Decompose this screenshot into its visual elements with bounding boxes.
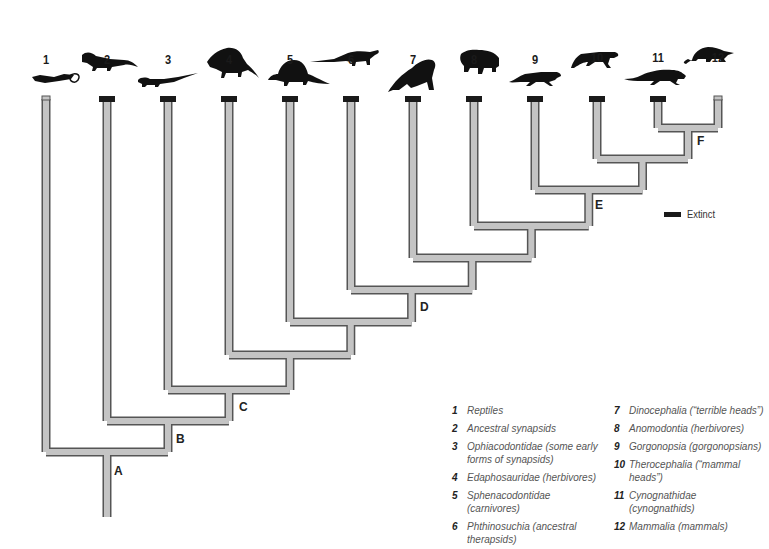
node-label-f: F bbox=[697, 134, 704, 148]
key-text: Therocephalia (“mammal heads”) bbox=[629, 458, 764, 484]
key-item: 9Gorgonopsia (gorgonopsians) bbox=[614, 440, 764, 453]
extinct-marker-icon bbox=[527, 96, 543, 102]
taxon-number: 11 bbox=[645, 50, 671, 65]
node-label-e: E bbox=[595, 198, 603, 212]
key-number: 10 bbox=[614, 458, 626, 484]
extinct-marker-icon bbox=[589, 96, 605, 102]
key-text: Cynognathidae (cynognathids) bbox=[629, 489, 764, 515]
key-number: 3 bbox=[452, 440, 464, 466]
taxon-number: 7 bbox=[400, 52, 426, 67]
key-number: 9 bbox=[614, 440, 626, 453]
key-item: 11Cynognathidae (cynognathids) bbox=[614, 489, 764, 515]
key-number: 2 bbox=[452, 422, 464, 435]
key-item: 8Anomodontia (herbivores) bbox=[614, 422, 764, 435]
living-tip-marker bbox=[42, 96, 50, 100]
key-number: 6 bbox=[452, 520, 464, 546]
key-number: 5 bbox=[452, 489, 464, 515]
key-number: 4 bbox=[452, 471, 464, 484]
extinct-marker-icon bbox=[650, 96, 666, 102]
key-item: 2Ancestral synapsids bbox=[452, 422, 602, 435]
key-text: Gorgonopsia (gorgonopsians) bbox=[629, 440, 764, 453]
key-number: 1 bbox=[452, 404, 464, 417]
key-item: 12Mammalia (mammals) bbox=[614, 520, 764, 533]
key-text: Edaphosauridae (herbivores) bbox=[467, 471, 602, 484]
taxon-number: 10 bbox=[584, 50, 610, 65]
taxon-number: 6 bbox=[338, 52, 364, 67]
key-item: 5Sphenacodontidae (carnivores) bbox=[452, 489, 602, 515]
extinct-markers bbox=[42, 96, 722, 102]
extinct-marker-icon bbox=[221, 96, 237, 102]
key-text: Anomodontia (herbivores) bbox=[629, 422, 764, 435]
taxon-number: 1 bbox=[33, 52, 59, 67]
key-column-2: 7Dinocephalia (“terrible heads”)8Anomodo… bbox=[614, 404, 764, 538]
taxon-number: 4 bbox=[216, 52, 242, 67]
key-item: 7Dinocephalia (“terrible heads”) bbox=[614, 404, 764, 417]
taxon-number: 12 bbox=[705, 50, 731, 65]
taxon-number: 5 bbox=[277, 52, 303, 67]
node-label-d: D bbox=[420, 300, 429, 314]
taxon-number: 2 bbox=[94, 52, 120, 67]
key-item: 3Ophiacodontidae (some early forms of sy… bbox=[452, 440, 602, 466]
key-item: 10Therocephalia (“mammal heads”) bbox=[614, 458, 764, 484]
animal-silhouettes bbox=[32, 47, 734, 92]
taxon-number: 8 bbox=[461, 52, 487, 67]
cynognathid-silhouette-icon bbox=[624, 70, 686, 85]
key-number: 12 bbox=[614, 520, 626, 533]
key-text: Dinocephalia (“terrible heads”) bbox=[629, 404, 764, 417]
key-item: 6Phthinosuchia (ancestral therapsids) bbox=[452, 520, 602, 546]
gorgonopsian-silhouette-icon bbox=[509, 72, 561, 86]
legend: Extinct bbox=[664, 208, 720, 220]
node-label-a: A bbox=[114, 464, 123, 478]
key-text: Reptiles bbox=[467, 404, 602, 417]
extinct-swatch-icon bbox=[664, 212, 681, 217]
key-item: 1Reptiles bbox=[452, 404, 602, 417]
taxon-number: 9 bbox=[522, 52, 548, 67]
key-text: Phthinosuchia (ancestral therapsids) bbox=[467, 520, 602, 546]
key-number: 11 bbox=[614, 489, 626, 515]
living-tip-marker bbox=[714, 96, 722, 100]
node-label-c: C bbox=[239, 400, 248, 414]
ophiacodontid-silhouette-icon bbox=[138, 73, 198, 87]
key-text: Ophiacodontidae (some early forms of syn… bbox=[467, 440, 602, 466]
key-text: Sphenacodontidae (carnivores) bbox=[467, 489, 602, 515]
key-item: 4Edaphosauridae (herbivores) bbox=[452, 471, 602, 484]
key-number: 8 bbox=[614, 422, 626, 435]
extinct-marker-icon bbox=[466, 96, 482, 102]
reptile-silhouette-icon bbox=[32, 74, 79, 83]
taxon-number: 3 bbox=[155, 52, 181, 67]
legend-extinct-label: Extinct bbox=[687, 208, 715, 220]
key-number: 7 bbox=[614, 404, 626, 417]
extinct-marker-icon bbox=[282, 96, 298, 102]
extinct-marker-icon bbox=[160, 96, 176, 102]
extinct-marker-icon bbox=[343, 96, 359, 102]
extinct-marker-icon bbox=[99, 96, 115, 102]
key-text: Ancestral synapsids bbox=[467, 422, 602, 435]
node-label-b: B bbox=[176, 432, 185, 446]
key-column-1: 1Reptiles2Ancestral synapsids3Ophiacodon… bbox=[452, 404, 602, 549]
key-text: Mammalia (mammals) bbox=[629, 520, 764, 533]
extinct-marker-icon bbox=[405, 96, 421, 102]
